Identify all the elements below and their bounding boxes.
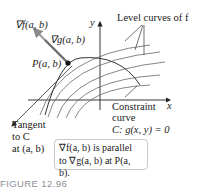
figure-caption: FIGURE 12.96 bbox=[0, 178, 67, 189]
point-p bbox=[65, 60, 70, 65]
grad-g-label: ∇g(a, b) bbox=[50, 34, 85, 45]
note-line-1: ∇f(a, b) is parallel bbox=[59, 142, 143, 155]
tangent-label-1: Tangent bbox=[12, 119, 46, 130]
grad-f-label: ∇f(a, b) bbox=[15, 19, 48, 30]
level-curves-label: Level curves of f bbox=[117, 12, 188, 23]
x-axis-label: x bbox=[167, 100, 172, 111]
constraint-label-2: curve bbox=[112, 112, 135, 123]
leader-line bbox=[125, 25, 142, 41]
tangent-label-2: to C bbox=[12, 131, 30, 142]
constraint-equation: C: g(x, y) = 0 bbox=[112, 124, 170, 135]
y-axis-label: y bbox=[90, 17, 95, 28]
tangent-line bbox=[12, 66, 72, 126]
note-line-2: to ∇g(a, b) at P(a, b). bbox=[59, 155, 143, 180]
point-label: P(a, b) bbox=[32, 58, 61, 69]
tangent-label-3: at (a, b) bbox=[12, 143, 44, 154]
note-box: ∇f(a, b) is parallel to ∇g(a, b) at P(a,… bbox=[54, 139, 148, 170]
constraint-label-1: Constraint bbox=[112, 101, 156, 112]
